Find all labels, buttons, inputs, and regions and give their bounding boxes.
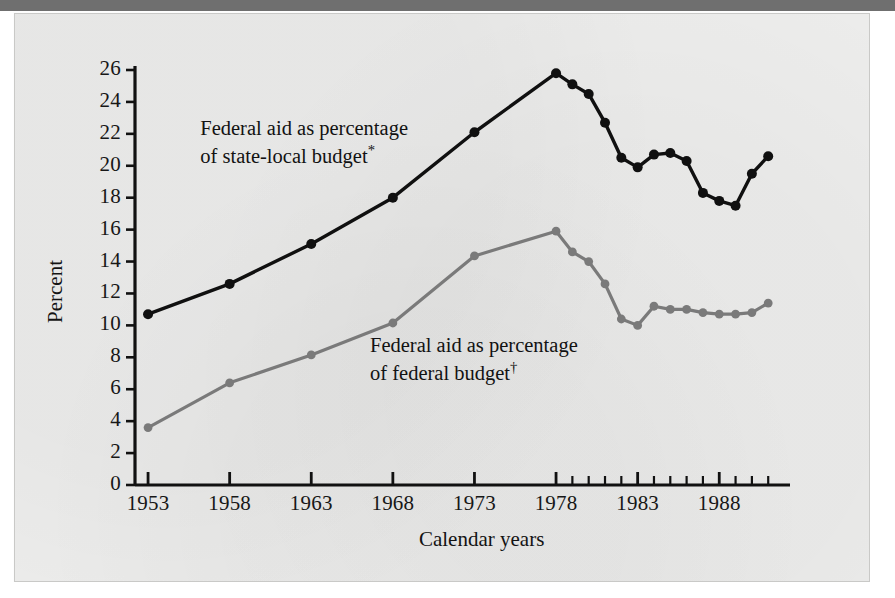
data-point-marker	[144, 423, 153, 432]
data-point-marker	[306, 239, 316, 249]
data-point-marker	[551, 68, 561, 78]
federal-series-label-line1: Federal aid as percentage	[370, 333, 578, 358]
x-tick-label-1988: 1988	[674, 491, 764, 516]
scan-edge-left	[0, 11, 13, 598]
scan-edge-bottom	[0, 582, 895, 598]
data-point-marker	[388, 193, 398, 203]
x-tick-label-1973: 1973	[429, 491, 519, 516]
data-point-marker	[747, 169, 757, 179]
figure-root: 02468101214161820222426 1953195819631968…	[0, 0, 895, 598]
y-tick-label-6: 6	[49, 375, 121, 400]
federal-series-label: Federal aid as percentageof federal budg…	[370, 333, 578, 386]
data-point-marker	[731, 201, 741, 211]
data-point-marker	[650, 302, 659, 311]
series-line-0	[148, 73, 768, 314]
data-point-marker	[715, 310, 724, 319]
data-point-marker	[682, 305, 691, 314]
y-tick-label-22: 22	[49, 120, 121, 145]
data-point-marker	[225, 378, 234, 387]
data-point-marker	[747, 308, 756, 317]
data-point-marker	[470, 252, 479, 261]
data-point-marker	[764, 299, 773, 308]
federal-series-label-footnote-marker: †	[510, 359, 517, 375]
data-point-marker	[568, 248, 577, 257]
x-axis-title: Calendar years	[419, 527, 544, 552]
federal-series-label-line2: of federal budget†	[370, 358, 578, 386]
x-tick-label-1958: 1958	[185, 491, 275, 516]
y-axis-title: Percent	[43, 260, 68, 323]
data-point-marker	[649, 150, 659, 160]
scan-top-band	[0, 0, 895, 11]
data-point-marker	[143, 309, 153, 319]
x-tick-label-1978: 1978	[511, 491, 601, 516]
x-tick-label-1983: 1983	[593, 491, 683, 516]
data-point-marker	[633, 162, 643, 172]
data-point-marker	[714, 196, 724, 206]
data-point-marker	[567, 79, 577, 89]
scan-edge-right	[869, 11, 895, 598]
data-point-marker	[699, 308, 708, 317]
data-point-marker	[469, 127, 479, 137]
data-point-marker	[731, 310, 740, 319]
y-tick-label-20: 20	[49, 152, 121, 177]
data-point-marker	[225, 279, 235, 289]
y-tick-label-18: 18	[49, 184, 121, 209]
state-local-series-label-line1: Federal aid as percentage	[200, 116, 408, 141]
series-line-1	[148, 231, 768, 427]
x-tick-label-1963: 1963	[266, 491, 356, 516]
data-point-marker	[616, 153, 626, 163]
y-tick-label-26: 26	[49, 56, 121, 81]
data-point-marker	[666, 305, 675, 314]
data-point-marker	[307, 351, 316, 360]
state-local-series-label-footnote-marker: *	[368, 142, 375, 158]
y-tick-label-24: 24	[49, 88, 121, 113]
data-point-marker	[388, 319, 397, 328]
data-point-marker	[584, 257, 593, 266]
data-point-marker	[584, 89, 594, 99]
y-tick-label-4: 4	[49, 407, 121, 432]
x-tick-label-1953: 1953	[103, 491, 193, 516]
data-point-marker	[682, 156, 692, 166]
data-point-marker	[552, 227, 561, 236]
data-point-marker	[763, 151, 773, 161]
data-point-marker	[665, 148, 675, 158]
state-local-series-label: Federal aid as percentageof state-local …	[200, 116, 408, 169]
data-point-marker	[617, 315, 626, 324]
y-tick-label-8: 8	[49, 343, 121, 368]
data-point-marker	[600, 118, 610, 128]
data-point-marker	[601, 279, 610, 288]
chart-panel: 02468101214161820222426 1953195819631968…	[14, 13, 870, 582]
data-point-marker	[698, 188, 708, 198]
y-tick-label-2: 2	[49, 439, 121, 464]
x-tick-label-1968: 1968	[348, 491, 438, 516]
state-local-series-label-line2: of state-local budget*	[200, 141, 408, 169]
data-point-marker	[633, 321, 642, 330]
y-tick-label-16: 16	[49, 216, 121, 241]
